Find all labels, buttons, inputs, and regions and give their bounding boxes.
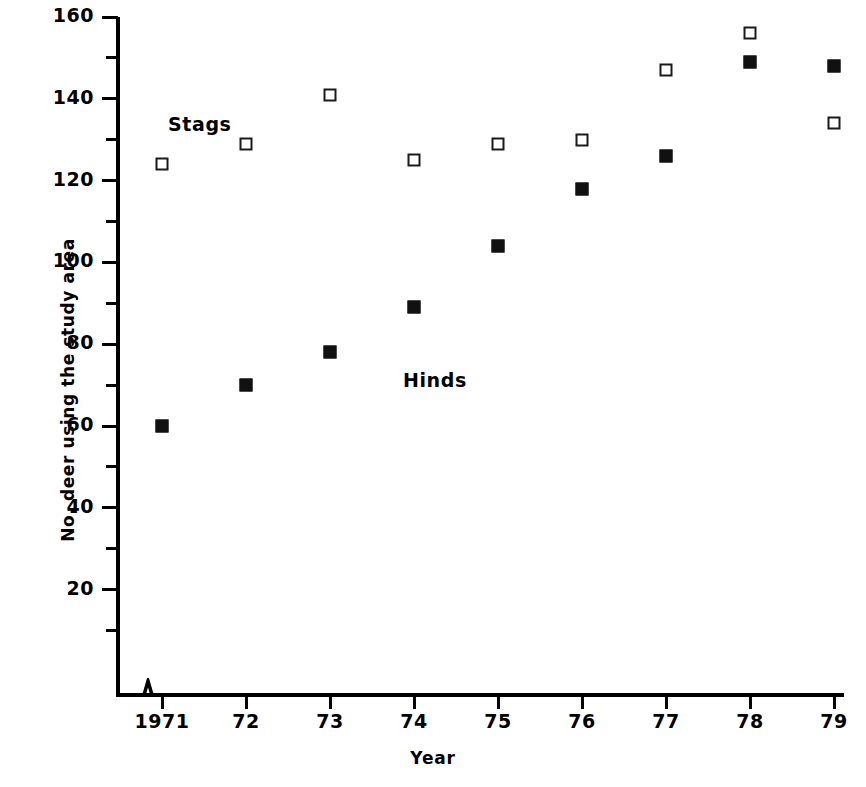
data-point-stags[interactable]: [492, 137, 505, 150]
y-tick-major: [102, 588, 118, 591]
x-tick: [497, 696, 500, 709]
data-point-hinds[interactable]: [744, 55, 757, 68]
data-point-stags[interactable]: [408, 154, 421, 167]
data-point-stags[interactable]: [828, 117, 841, 130]
y-tick-minor: [106, 547, 118, 550]
x-tick: [833, 696, 836, 709]
data-point-stags[interactable]: [744, 27, 757, 40]
data-point-hinds[interactable]: [324, 346, 337, 359]
y-tick-minor: [106, 138, 118, 141]
x-tick: [749, 696, 752, 709]
x-tick: [329, 696, 332, 709]
y-tick-major: [102, 179, 118, 182]
y-tick-minor: [106, 465, 118, 468]
y-tick-label: 80: [67, 331, 94, 353]
x-tick-label: 76: [568, 710, 595, 732]
y-tick-major: [102, 506, 118, 509]
data-point-hinds[interactable]: [408, 301, 421, 314]
x-tick-label: 79: [820, 710, 847, 732]
scatter-chart: No. deer using the study area Year 16014…: [0, 0, 866, 787]
y-tick-major: [102, 16, 118, 19]
y-tick-label: 40: [67, 495, 94, 517]
x-tick-label: 75: [484, 710, 511, 732]
y-tick-label: 140: [53, 86, 94, 108]
data-point-stags[interactable]: [660, 64, 673, 77]
x-tick-label: 72: [232, 710, 259, 732]
x-tick: [413, 696, 416, 709]
series-annotation: Stags: [168, 113, 232, 135]
y-axis-line: [116, 17, 120, 697]
data-point-stags[interactable]: [156, 158, 169, 171]
y-tick-minor: [106, 629, 118, 632]
y-tick-label: 100: [53, 249, 94, 271]
y-tick-label: 20: [67, 577, 94, 599]
x-tick-label: 77: [652, 710, 679, 732]
data-point-stags[interactable]: [240, 137, 253, 150]
data-point-hinds[interactable]: [828, 60, 841, 73]
series-annotation: Hinds: [403, 369, 467, 391]
data-point-stags[interactable]: [576, 133, 589, 146]
x-tick: [665, 696, 668, 709]
y-tick-minor: [106, 220, 118, 223]
data-point-hinds[interactable]: [156, 420, 169, 433]
data-point-hinds[interactable]: [660, 150, 673, 163]
y-tick-major: [102, 261, 118, 264]
data-point-stags[interactable]: [324, 88, 337, 101]
y-tick-minor: [106, 56, 118, 59]
y-tick-major: [102, 343, 118, 346]
y-tick-minor: [106, 302, 118, 305]
y-axis-label: No. deer using the study area: [58, 130, 78, 650]
y-tick-major: [102, 425, 118, 428]
y-tick-label: 60: [67, 413, 94, 435]
x-axis-label: Year: [0, 748, 866, 768]
data-point-hinds[interactable]: [240, 379, 253, 392]
y-tick-label: 160: [53, 4, 94, 26]
data-point-hinds[interactable]: [576, 182, 589, 195]
x-tick-label: 74: [400, 710, 427, 732]
y-tick-label: 120: [53, 168, 94, 190]
y-tick-major: [102, 97, 118, 100]
y-tick-minor: [106, 384, 118, 387]
axis-break-icon: [137, 678, 159, 698]
x-tick-label: 78: [736, 710, 763, 732]
x-tick-label: 73: [316, 710, 343, 732]
data-point-hinds[interactable]: [492, 240, 505, 253]
x-tick: [245, 696, 248, 709]
x-axis-line: [116, 693, 844, 697]
x-tick: [581, 696, 584, 709]
x-tick: [161, 696, 164, 709]
x-tick-label: 1971: [135, 710, 190, 732]
